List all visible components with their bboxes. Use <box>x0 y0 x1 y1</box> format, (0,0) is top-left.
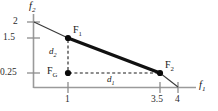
pareto-front-figure: f2 f1 2 1.5 0.25 1 3.5 4 F1 F2 FG d2 d1 <box>0 0 218 111</box>
point-f2-marker <box>157 70 163 76</box>
plot-canvas <box>0 0 218 111</box>
pareto-front-thin-line <box>34 22 68 38</box>
x-axis-label: f1 <box>199 80 205 91</box>
point-label-f1: F1 <box>73 25 82 35</box>
x-tick-label-3-5: 3.5 <box>151 95 163 105</box>
y-tick-label-1-5: 1.5 <box>3 33 15 43</box>
point-label-fg: FG <box>47 66 57 76</box>
y-tick-label-2: 2 <box>13 17 18 27</box>
y-axis-label: f2 <box>29 1 35 12</box>
y-tick-label-0-25: 0.25 <box>0 68 17 78</box>
pareto-front-thick-segment <box>68 38 160 73</box>
point-fg-marker <box>65 70 71 76</box>
x-tick-label-4: 4 <box>175 95 180 105</box>
x-tick-label-1: 1 <box>65 95 70 105</box>
pareto-front-thin-line-right <box>160 73 178 87</box>
point-label-f2: F2 <box>165 60 174 70</box>
point-f1-marker <box>65 35 71 41</box>
distance-label-d1: d1 <box>107 75 115 84</box>
distance-label-d2: d2 <box>49 47 57 56</box>
